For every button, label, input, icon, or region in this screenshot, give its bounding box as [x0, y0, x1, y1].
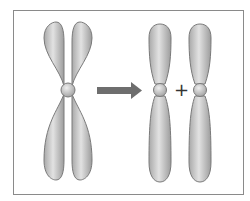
chromatid-arm-lower-left [44, 94, 64, 180]
chromatid-2 [189, 24, 211, 182]
chromatid-arm-upper-left [44, 22, 64, 86]
plus-sign: + [174, 81, 189, 99]
centromere [154, 84, 167, 97]
centromere [194, 84, 207, 97]
chromatid-arm-lower-right [72, 94, 92, 180]
centromere [61, 83, 75, 97]
replicated-chromosome [44, 22, 92, 180]
arrow-right-icon [97, 82, 142, 99]
chromatid-arm-upper-right [72, 22, 92, 86]
chromatid-1 [149, 24, 171, 182]
diagram-canvas [0, 0, 250, 201]
